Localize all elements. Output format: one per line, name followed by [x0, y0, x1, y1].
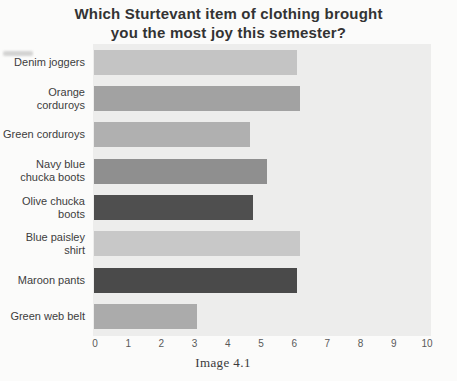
x-tick-label: 1	[125, 338, 131, 349]
category-label: Green web belt	[0, 310, 93, 323]
category-label: Navy blue chucka boots	[0, 158, 93, 184]
chart-page: Which Sturtevant item of clothing brough…	[0, 0, 457, 381]
bar	[94, 195, 253, 220]
bar-track	[93, 299, 457, 335]
bar-row: Green corduroys	[0, 117, 457, 153]
x-tick-label: 9	[391, 338, 397, 349]
bar	[94, 159, 267, 184]
figure-caption: Image 4.1	[0, 355, 446, 371]
x-tick-label: 5	[258, 338, 264, 349]
bar-row: Maroon pants	[0, 262, 457, 298]
bar-track	[93, 80, 457, 116]
category-label: Olive chucka boots	[0, 195, 93, 221]
category-label: Maroon pants	[0, 274, 93, 287]
x-tick-label: 6	[291, 338, 297, 349]
bar-track	[93, 117, 457, 153]
bar-row: Denim joggers	[0, 44, 457, 80]
bar-row: Navy blue chucka boots	[0, 153, 457, 189]
bar-chart: Denim joggersOrange corduroysGreen cordu…	[0, 44, 457, 336]
bar-rows: Denim joggersOrange corduroysGreen cordu…	[0, 44, 457, 336]
chart-title: Which Sturtevant item of clothing brough…	[0, 4, 457, 42]
bar-track	[93, 44, 457, 80]
bar-row: Blue paisley shirt	[0, 226, 457, 262]
bar	[94, 268, 297, 293]
x-tick-label: 3	[192, 338, 198, 349]
bar-track	[93, 190, 457, 226]
bar-track	[93, 226, 457, 262]
category-label: Green corduroys	[0, 128, 93, 141]
bar	[94, 231, 300, 256]
x-tick-label: 7	[325, 338, 331, 349]
bar-track	[93, 153, 457, 189]
x-axis: 012345678910	[0, 338, 457, 352]
bar-row: Olive chucka boots	[0, 190, 457, 226]
x-tick-label: 0	[92, 338, 98, 349]
bar-row: Orange corduroys	[0, 80, 457, 116]
x-tick-label: 2	[159, 338, 165, 349]
bar	[94, 86, 300, 111]
x-tick-label: 8	[358, 338, 364, 349]
bar	[94, 304, 197, 329]
bar	[94, 50, 297, 75]
bar-track	[93, 262, 457, 298]
category-label: Orange corduroys	[0, 86, 93, 112]
bar	[94, 122, 250, 147]
category-label: Blue paisley shirt	[0, 231, 93, 257]
x-tick-label: 10	[421, 338, 432, 349]
bar-row: Green web belt	[0, 299, 457, 335]
x-tick-label: 4	[225, 338, 231, 349]
category-label: Denim joggers	[0, 56, 93, 69]
